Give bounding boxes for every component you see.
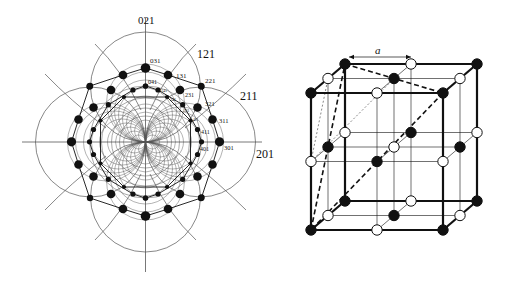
pole-dot [98,161,102,165]
pole-dot [195,152,200,157]
pole-dot [87,139,92,144]
pole-dot [180,177,185,182]
pole-label-041: 041 [148,79,157,85]
black-atom [323,142,333,152]
pole-dot [86,83,92,89]
pole-dot [176,190,185,199]
white-atom [455,210,465,220]
pole-label-231: 231 [185,92,194,98]
black-atom [389,73,399,83]
pole-dot [89,103,98,112]
pole-dot [106,177,111,182]
pole-dot [107,190,116,199]
pole-dot [106,102,111,107]
pole-dot [164,71,173,80]
pole-label-021: 021 [138,14,155,26]
pole-dot [188,161,192,165]
pole-dot [198,83,204,89]
pole-label-311: 311 [219,117,229,124]
pole-dot [193,103,202,112]
pole-label-201: 201 [256,147,274,161]
pole-label-211: 211 [240,89,258,103]
white-atom [438,156,448,166]
white-atom [372,88,382,98]
pole-dot [107,86,116,95]
black-atom [406,127,416,137]
pole-dot [91,152,96,157]
pole-label-301: 301 [224,144,234,151]
white-atom [323,210,333,220]
diagram-canvas: 0211212112010311310412211412312413213314… [0,0,505,285]
pole-dot [141,63,150,72]
black-atom [306,225,316,235]
pole-dot [130,87,135,92]
crystal-unit-cell: a [306,44,482,235]
pole-dot [215,137,224,146]
pole-label-031: 031 [150,57,161,65]
pole-dot [180,102,185,107]
pole-dot [87,195,93,201]
pole-dot [74,115,83,124]
white-atom [406,59,416,69]
white-atom [472,127,482,137]
black-atom [472,196,482,206]
black-atom [438,225,448,235]
white-atom [406,196,416,206]
pole-label-121: 121 [197,47,215,61]
pole-dot [130,191,135,196]
white-atom [340,127,350,137]
pole-dot [195,127,200,132]
white-atom [455,73,465,83]
pole-dot [122,185,126,189]
pole-dot [164,205,173,214]
pole-label-221: 221 [205,77,216,85]
pole-dot [176,86,185,95]
pole-dot [208,160,217,169]
white-atom [389,142,399,152]
pole-dot [199,139,204,144]
black-atom [372,156,382,166]
lattice-constant-label: a [375,44,381,56]
pole-dot [188,118,192,122]
pole-dot [141,211,150,220]
pole-dot [91,127,96,132]
pole-label-401: 401 [200,146,209,152]
pole-dot [89,172,98,181]
pole-label-421: 421 [193,118,199,122]
pole-dot [165,185,169,189]
white-atom [372,225,382,235]
pole-dot [198,194,204,200]
white-atom [306,156,316,166]
pole-dot [143,195,148,200]
pole-dot [119,205,128,214]
black-atom [438,88,448,98]
pole-dot [193,172,202,181]
arrow-head-left [349,55,354,59]
pole-dot [74,160,83,169]
pole-dot [67,137,76,146]
pole-dot [165,95,169,99]
white-atom [323,73,333,83]
pole-dot [122,95,126,99]
pole-dot [119,71,128,80]
pole-dot [155,87,160,92]
pole-dot [98,118,102,122]
pole-label-241: 241 [170,97,176,102]
pole-label-321: 321 [205,100,215,107]
black-atom [389,210,399,220]
black-atom [306,88,316,98]
pole-label-331: 331 [184,109,190,113]
black-atom [455,142,465,152]
pole-label-411: 411 [201,129,210,135]
black-atom [340,59,350,69]
black-atom [340,196,350,206]
pole-label-141: 141 [161,88,167,93]
pole-label-131: 131 [176,72,187,80]
pole-dot [208,115,217,124]
pole-dot [155,191,160,196]
black-atom [472,59,482,69]
